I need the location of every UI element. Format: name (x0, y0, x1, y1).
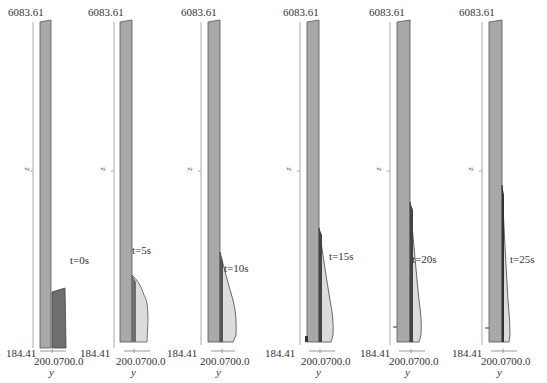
column-plot (80, 0, 180, 383)
z-axis-label: z (465, 167, 475, 171)
y-axis-label: y (216, 366, 221, 378)
panel-t15: 6083.61 z t=15s 184.41 200.0700.0 y (265, 0, 365, 383)
y-tick-labels: 200.0700.0 (481, 355, 531, 367)
time-label: t=5s (132, 244, 151, 256)
y-tick-labels: 200.0700.0 (389, 355, 439, 367)
y-axis-label: y (49, 366, 54, 378)
column-plot (167, 0, 267, 383)
time-label: t=25s (510, 253, 535, 265)
panel-t20: 6083.61 z t=20s 184.41 200.0700.0 y (355, 0, 455, 383)
y-axis-label: y (131, 366, 136, 378)
column-plot (355, 0, 455, 383)
z-axis-label: z (21, 167, 31, 171)
y-axis-label: y (405, 366, 410, 378)
y-axis-label: y (316, 366, 321, 378)
z-axis-label: z (184, 167, 194, 171)
time-label: t=20s (412, 253, 437, 265)
column-plot (447, 0, 547, 383)
z-min-label: 184.41 (360, 347, 390, 359)
z-min-label: 184.41 (6, 347, 36, 359)
y-tick-labels: 200.0700.0 (116, 355, 166, 367)
y-tick-labels: 200.0700.0 (301, 355, 351, 367)
column-plot (265, 0, 365, 383)
panel-t10: 6083.61 z t=10s 184.41 200.0700.0 y (167, 0, 267, 383)
z-axis-label: z (373, 167, 383, 171)
z-min-label: 184.41 (80, 347, 110, 359)
y-axis-label: y (497, 366, 502, 378)
panel-t5: 6083.61 z t=5s 184.41 200.0700.0 y (80, 0, 180, 383)
panel-t25: 6083.61 z t=25s 184.41 200.0700.0 y (447, 0, 547, 383)
z-axis-label: z (97, 167, 107, 171)
z-min-label: 184.41 (452, 347, 482, 359)
z-axis-label: z (283, 167, 293, 171)
z-min-label: 184.41 (265, 347, 295, 359)
z-min-label: 184.41 (167, 347, 197, 359)
time-label: t=15s (329, 250, 354, 262)
y-tick-labels: 200.0700.0 (200, 355, 250, 367)
y-tick-labels: 200.0700.0 (34, 355, 84, 367)
time-label: t=10s (224, 262, 249, 274)
